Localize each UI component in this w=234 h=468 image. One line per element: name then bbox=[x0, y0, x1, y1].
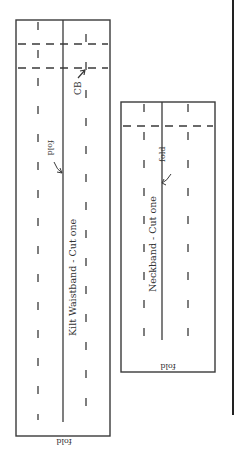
neckband-piece: fold Neckband - Cut one fold bbox=[121, 102, 215, 372]
kilt-waistband-fold-arrow-icon bbox=[54, 162, 62, 173]
kilt-waistband-title: Kilt Waistband - Cut one bbox=[67, 218, 78, 336]
kilt-waistband-piece: CB fold Kilt Waistband - Cut one fold bbox=[16, 20, 110, 446]
cb-label: CB bbox=[73, 81, 83, 95]
neckband-title: Neckband - Cut one bbox=[147, 196, 158, 292]
neckband-fold-label: fold bbox=[158, 147, 167, 162]
neckband-outline bbox=[121, 102, 215, 372]
pattern-diagram: CB fold Kilt Waistband - Cut one fold fo… bbox=[0, 0, 234, 468]
kilt-waistband-bottom-fold-label: fold bbox=[56, 437, 71, 446]
cb-arrow-icon bbox=[78, 70, 85, 78]
kilt-waistband-fold-label: fold bbox=[46, 140, 55, 155]
neckband-bottom-fold-label: fold bbox=[160, 362, 175, 371]
neckband-fold-arrow-icon bbox=[162, 174, 171, 185]
